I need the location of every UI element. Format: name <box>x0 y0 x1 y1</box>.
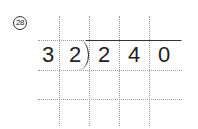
grid-vline <box>59 16 60 126</box>
dividend-digit: 0 <box>154 44 174 66</box>
grid-hline <box>38 99 182 100</box>
problem-number-badge: 28 <box>13 16 27 30</box>
grid-hline <box>38 70 182 71</box>
grid-vline <box>149 16 150 126</box>
grid-vline <box>119 16 120 126</box>
divisor-digit: 2 <box>65 44 85 66</box>
grid-vline <box>89 16 90 126</box>
division-vinculum <box>86 40 181 41</box>
dividend-digit: 2 <box>94 44 114 66</box>
divisor-digit: 3 <box>38 44 58 66</box>
dividend-digit: 4 <box>124 44 144 66</box>
